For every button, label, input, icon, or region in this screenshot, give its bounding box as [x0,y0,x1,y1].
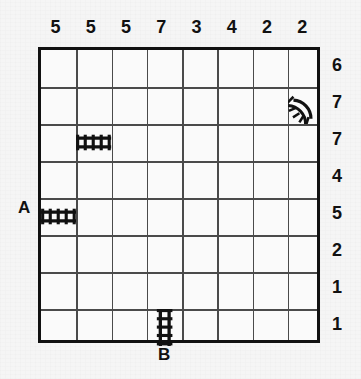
track-vertical-r8c4[interactable] [147,309,182,346]
row-clue-5: 5 [324,195,350,232]
track-horizontal-icon [76,124,111,161]
gridline-vertical-5 [217,50,219,340]
column-clue-3: 5 [109,16,144,38]
column-clue-5: 3 [179,16,214,38]
row-clue-4: 4 [324,158,350,195]
row-clue-6: 2 [324,232,350,269]
column-clue-7: 2 [250,16,285,38]
track-horizontal-r3c2[interactable] [76,124,111,161]
gridline-vertical-3 [147,50,149,340]
track-horizontal-icon [41,198,76,235]
column-clue-6: 4 [214,16,249,38]
column-clue-2: 5 [73,16,108,38]
gridline-vertical-2 [112,50,114,340]
column-clue-8: 2 [285,16,320,38]
grid-frame [38,47,320,343]
gridline-horizontal-3 [41,161,317,163]
gridline-horizontal-6 [41,272,317,274]
endpoint-label-a: A [18,198,30,218]
row-clue-8: 1 [324,306,350,343]
gridline-horizontal-4 [41,198,317,200]
row-clue-3: 7 [324,121,350,158]
gridline-horizontal-5 [41,235,317,237]
endpoint-label-b: B [158,345,170,365]
track-horizontal-r5c1[interactable] [41,198,76,235]
column-clue-4: 7 [144,16,179,38]
track-vertical-icon [147,309,182,346]
gridline-vertical-4 [182,50,184,340]
gridline-vertical-6 [253,50,255,340]
row-clue-2: 7 [324,84,350,121]
track-curve-r2c8[interactable] [288,87,323,124]
railroad-puzzle-grid: 5 5 5 7 3 4 2 2 6 7 7 4 5 2 1 1 A B [0,0,361,379]
row-clue-1: 6 [324,47,350,84]
gridline-horizontal-1 [41,87,317,89]
track-curve-icon [288,87,323,124]
row-clue-7: 1 [324,269,350,306]
column-clue-1: 5 [38,16,73,38]
gridline-vertical-1 [76,50,78,340]
